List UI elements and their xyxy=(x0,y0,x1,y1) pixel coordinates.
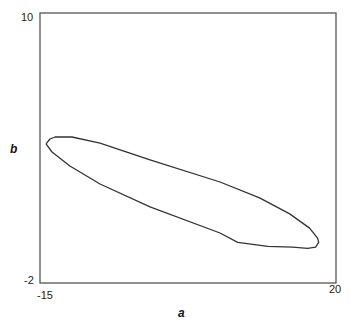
ellipse-curve xyxy=(46,137,319,248)
x-tick-right: 20 xyxy=(329,283,341,295)
x-tick-left: -15 xyxy=(37,289,53,301)
x-axis-label: a xyxy=(178,306,185,320)
y-tick-top: 10 xyxy=(21,11,33,23)
plot-frame xyxy=(40,13,336,283)
chart: 10 -2 -15 20 b a xyxy=(0,0,356,328)
y-tick-bottom: -2 xyxy=(24,274,34,286)
y-axis-label: b xyxy=(10,142,17,156)
